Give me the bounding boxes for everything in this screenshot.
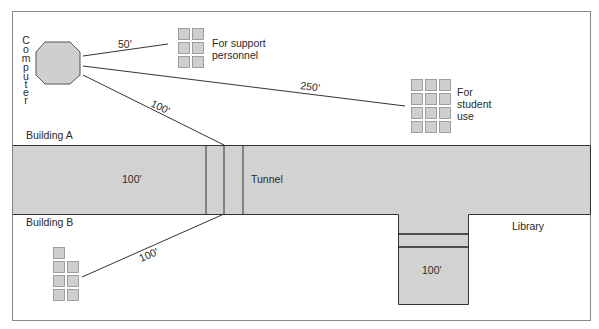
distance-support: 50' [118, 38, 132, 50]
student-label-line3: use [457, 110, 474, 122]
library-branch-length-label: 100' [422, 264, 442, 276]
terminal-icon [193, 43, 204, 54]
campus-network-diagram: C o m p u t e r 50' 250' 100' 100' For s… [0, 0, 599, 329]
building-a-label: Building A [26, 129, 73, 141]
library-label: Library [512, 220, 545, 232]
support-label-line2: personnel [212, 49, 258, 61]
student-label-line2: student [457, 98, 492, 110]
computer-icon [36, 42, 80, 84]
corridor-length-label: 100' [122, 173, 142, 185]
terminal-icon [179, 29, 190, 40]
support-label-line1: For support [212, 37, 266, 49]
distance-student: 250' [300, 79, 321, 93]
building-b-label: Building B [26, 216, 73, 228]
terminal-icon [179, 43, 190, 54]
student-label-line1: For [457, 86, 473, 98]
tunnel-label: Tunnel [251, 173, 283, 185]
terminal-icon [179, 57, 190, 68]
terminal-icon [193, 57, 204, 68]
terminal-icon [193, 29, 204, 40]
svg-text:r: r [24, 94, 28, 106]
